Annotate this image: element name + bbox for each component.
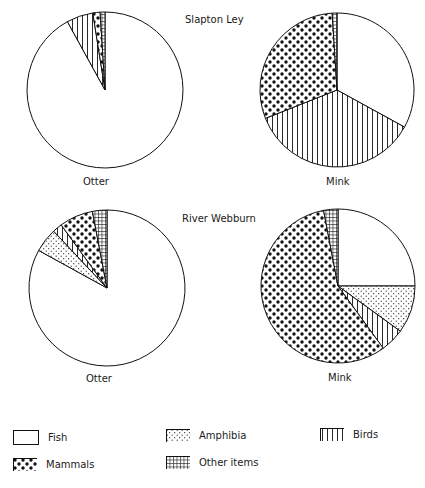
fish-swatch-icon bbox=[13, 430, 39, 445]
legend-mammals: Mammals bbox=[13, 458, 94, 471]
pie-slapton-mink bbox=[260, 13, 414, 167]
legend-birds: Birds bbox=[320, 428, 378, 441]
label-mink-webburn: Mink bbox=[328, 372, 352, 383]
mammals-swatch-icon bbox=[13, 458, 37, 471]
pie-webburn-otter bbox=[29, 210, 185, 366]
pie-webburn-mink bbox=[261, 209, 415, 363]
slice-fish bbox=[338, 209, 415, 286]
legend-fish-label: Fish bbox=[48, 432, 67, 443]
legend-amphibia-label: Amphibia bbox=[199, 430, 246, 441]
amphibia-swatch-icon bbox=[166, 429, 190, 442]
title-river-webburn: River Webburn bbox=[182, 213, 256, 224]
legend-birds-label: Birds bbox=[353, 429, 378, 440]
birds-swatch-icon bbox=[320, 428, 344, 441]
title-slapton-ley: Slapton Ley bbox=[185, 14, 244, 25]
pie-charts bbox=[0, 0, 425, 488]
other-items-swatch-icon bbox=[166, 456, 190, 469]
legend-other-items: Other items bbox=[166, 456, 258, 469]
label-mink-slapton: Mink bbox=[326, 176, 350, 187]
pie-slapton-otter bbox=[27, 12, 183, 168]
legend-other-items-label: Other items bbox=[199, 457, 258, 468]
legend-mammals-label: Mammals bbox=[46, 459, 94, 470]
legend-fish: Fish bbox=[13, 430, 67, 445]
label-otter-webburn: Otter bbox=[86, 373, 112, 384]
legend-amphibia: Amphibia bbox=[166, 429, 246, 442]
label-otter-slapton: Otter bbox=[83, 176, 109, 187]
